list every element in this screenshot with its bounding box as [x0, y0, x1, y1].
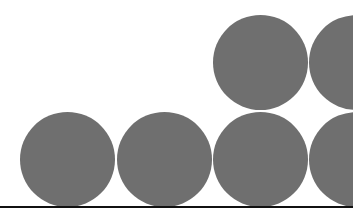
circle-top-2: [309, 15, 354, 110]
circle-bottom-1: [20, 112, 115, 207]
circle-stack: [0, 0, 353, 220]
circle-bottom-3: [213, 112, 308, 207]
circle-bottom-4: [309, 112, 354, 207]
circle-bottom-2: [117, 112, 212, 207]
ground-baseline: [0, 206, 353, 208]
circle-top-1: [213, 15, 308, 110]
diagram-canvas: [0, 0, 356, 220]
